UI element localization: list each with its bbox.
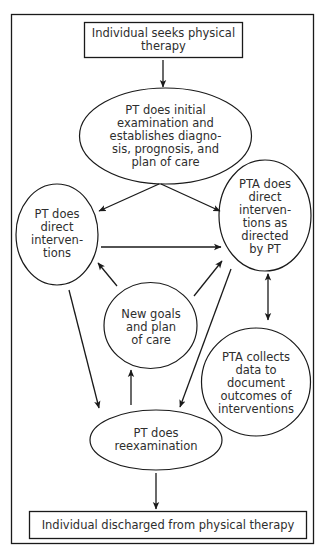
- pta-collects-label: PTA collects data to document outcomes o…: [203, 350, 309, 416]
- initial-exam-label: PT does initial examination and establis…: [95, 100, 236, 172]
- arrow-new-goals-to-pta-interventions: [194, 261, 222, 296]
- end-label: Individual discharged from physical ther…: [30, 512, 306, 538]
- arrow-pt-interventions-to-reexam: [69, 290, 99, 408]
- arrow-initial-exam-to-pta-interventions: [161, 184, 220, 211]
- reexam-label: PT does reexamination: [92, 425, 220, 455]
- arrow-new-goals-to-pt-interventions: [98, 263, 117, 286]
- arrow-initial-exam-to-pt-interventions: [99, 184, 159, 211]
- pta-interventions-label: PTA does direct interven- tions as direc…: [222, 176, 308, 258]
- pt-interventions-label: PT does direct interven- tions: [18, 206, 96, 262]
- flowchart-canvas: [0, 0, 325, 548]
- start-label: Individual seeks physical therapy: [85, 23, 242, 57]
- new-goals-label: New goals and plan of care: [108, 306, 194, 348]
